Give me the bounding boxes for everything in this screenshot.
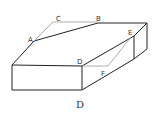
front-face bbox=[12, 65, 82, 90]
label-f: F bbox=[101, 70, 105, 78]
label-b: B bbox=[96, 15, 101, 23]
label-d: D bbox=[77, 58, 82, 66]
label-a: A bbox=[28, 36, 33, 44]
label-e: E bbox=[128, 29, 132, 37]
figure-caption: D bbox=[76, 99, 84, 110]
solid-diagram: A C B E D F D bbox=[0, 0, 155, 113]
label-c: C bbox=[56, 15, 61, 23]
